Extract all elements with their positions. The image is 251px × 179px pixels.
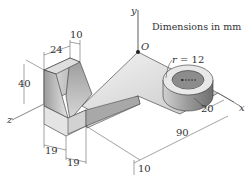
y-axis: y: [130, 5, 138, 52]
y-axis-label: y: [130, 5, 137, 16]
isometric-part-drawing: y O x z Dimensions in mm r = 12: [0, 0, 251, 179]
dim-20: 20: [201, 103, 214, 114]
x-axis-label: x: [239, 102, 245, 113]
dim-90: 90: [176, 127, 189, 138]
dim-40: 40: [18, 78, 31, 89]
z-axis: [12, 104, 44, 120]
dim-10-top: 10: [70, 29, 83, 40]
z-axis-label: z: [6, 114, 13, 125]
units-note: Dimensions in mm: [152, 21, 241, 32]
dim-19-b: 19: [67, 157, 80, 168]
radius-label: r = 12: [172, 54, 204, 65]
dim-24: 24: [50, 44, 63, 55]
dim-10-bottom: 10: [138, 163, 151, 174]
origin-point: [136, 50, 140, 54]
origin-label: O: [141, 41, 149, 52]
dim-19-a: 19: [45, 145, 58, 156]
